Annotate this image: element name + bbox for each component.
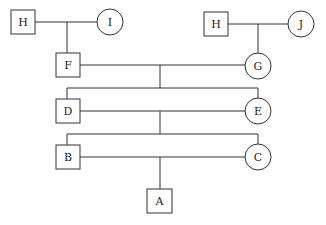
svg-text:C: C (254, 151, 262, 164)
svg-text:D: D (64, 105, 73, 118)
node-i: I (97, 9, 123, 35)
svg-text:J: J (298, 18, 303, 31)
node-j: J (288, 11, 314, 37)
svg-text:I: I (108, 16, 112, 29)
pedigree-diagram: H I H J F G D E B C A (0, 0, 326, 225)
node-a: A (147, 189, 172, 213)
node-f: F (56, 53, 80, 77)
sibship-line-d-e (67, 88, 258, 99)
svg-text:B: B (64, 151, 72, 164)
node-h-left: H (11, 10, 35, 34)
svg-text:E: E (254, 105, 262, 118)
node-e: E (245, 98, 271, 124)
svg-text:G: G (254, 60, 263, 73)
svg-text:H: H (18, 16, 28, 29)
svg-text:H: H (211, 18, 221, 31)
node-h-right: H (204, 12, 228, 36)
node-g: G (245, 53, 271, 79)
svg-text:F: F (64, 59, 72, 72)
node-c: C (245, 144, 271, 170)
svg-text:A: A (155, 195, 165, 208)
node-b: B (56, 145, 80, 169)
node-d: D (56, 99, 80, 123)
sibship-line-b-c (67, 134, 258, 145)
